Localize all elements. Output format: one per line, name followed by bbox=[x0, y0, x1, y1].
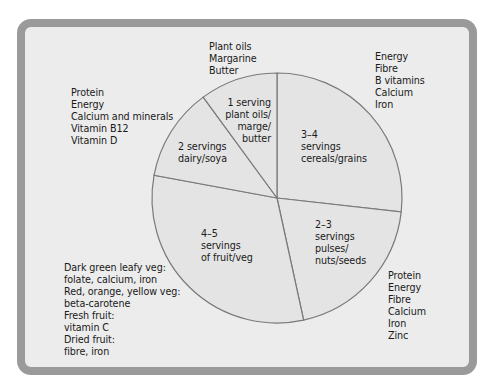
note-line: Calcium bbox=[388, 306, 426, 318]
slice-label-line: nuts/seeds bbox=[315, 255, 366, 267]
pulses-nutrients-note: Protein Energy Fibre Calcium Iron Zinc bbox=[388, 270, 426, 342]
note-line: Red, orange, yellow veg: bbox=[64, 286, 180, 298]
slice-label-line: servings bbox=[301, 141, 367, 153]
note-line: Margarine bbox=[209, 53, 257, 65]
note-line: fibre, iron bbox=[64, 346, 180, 358]
note-line: beta-carotene bbox=[64, 298, 180, 310]
cereals-nutrients-note: Energy Fibre B vitamins Calcium Iron bbox=[375, 51, 425, 111]
note-line: Protein bbox=[71, 87, 173, 99]
note-line: Fibre bbox=[375, 63, 425, 75]
slice-label-line: 2–3 bbox=[315, 219, 366, 231]
note-line: Dried fruit: bbox=[64, 334, 180, 346]
slice-label-cereals: 3–4 servings cereals/grains bbox=[301, 129, 367, 165]
slice-label-line: 3–4 bbox=[301, 129, 367, 141]
slice-label-line: cereals/grains bbox=[301, 153, 367, 165]
note-line: B vitamins bbox=[375, 75, 425, 87]
note-line: Energy bbox=[375, 51, 425, 63]
note-line: Calcium and minerals bbox=[71, 111, 173, 123]
note-line: Dark green leafy veg: bbox=[64, 262, 180, 274]
note-line: vitamin C bbox=[64, 322, 180, 334]
slice-label-line: servings bbox=[315, 231, 366, 243]
note-line: Fibre bbox=[388, 294, 426, 306]
slice-label-line: pulses/ bbox=[315, 243, 366, 255]
slice-label-line: 1 serving bbox=[218, 97, 271, 109]
slice-label-line: marge/ bbox=[218, 121, 271, 133]
note-line: Calcium bbox=[375, 87, 425, 99]
slice-label-fruitveg: 4–5 servings of fruit/veg bbox=[201, 228, 253, 264]
note-line: Protein bbox=[388, 270, 426, 282]
note-line: Iron bbox=[375, 99, 425, 111]
note-line: Vitamin B12 bbox=[71, 123, 173, 135]
slice-label-line: dairy/soya bbox=[178, 153, 227, 165]
dairy-nutrients-note: Protein Energy Calcium and minerals Vita… bbox=[71, 87, 173, 147]
note-line: Iron bbox=[388, 318, 426, 330]
fruitveg-nutrients-note: Dark green leafy veg: folate, calcium, i… bbox=[64, 262, 180, 358]
note-line: Butter bbox=[209, 65, 257, 77]
oils-nutrients-note: Plant oils Margarine Butter bbox=[209, 41, 257, 77]
slice-label-oils: 1 serving plant oils/ marge/ butter bbox=[218, 97, 271, 145]
note-line: folate, calcium, iron bbox=[64, 274, 180, 286]
slice-label-dairy: 2 servings dairy/soya bbox=[178, 141, 227, 165]
slice-label-line: of fruit/veg bbox=[201, 252, 253, 264]
slice-label-pulses: 2–3 servings pulses/ nuts/seeds bbox=[315, 219, 366, 267]
note-line: Energy bbox=[388, 282, 426, 294]
slice-label-line: 4–5 bbox=[201, 228, 253, 240]
note-line: Zinc bbox=[388, 330, 426, 342]
note-line: Fresh fruit: bbox=[64, 310, 180, 322]
note-line: Vitamin D bbox=[71, 135, 173, 147]
note-line: Energy bbox=[71, 99, 173, 111]
slice-label-line: 2 servings bbox=[178, 141, 227, 153]
slice-label-line: servings bbox=[201, 240, 253, 252]
slice-label-line: plant oils/ bbox=[218, 109, 271, 121]
note-line: Plant oils bbox=[209, 41, 257, 53]
